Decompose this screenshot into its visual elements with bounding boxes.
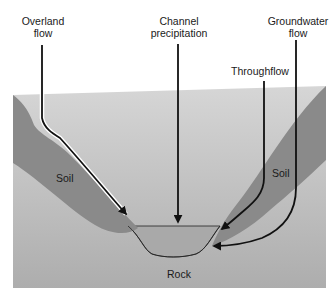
channel-precipitation-label: Channel precipitation bbox=[143, 15, 215, 39]
groundwater-flow-label-line1: Groundwater bbox=[262, 15, 334, 27]
channel-precipitation-label-line1: Channel bbox=[143, 15, 215, 27]
soil-right-label: Soil bbox=[272, 167, 290, 179]
river-channel-diagram bbox=[0, 0, 334, 296]
groundwater-flow-label-line2: flow bbox=[262, 27, 334, 39]
channel-precipitation-label-line2: precipitation bbox=[143, 27, 215, 39]
overland-flow-label-line2: flow bbox=[18, 27, 68, 39]
throughflow-label-line1: Throughflow bbox=[230, 65, 290, 77]
groundwater-flow-label: Groundwater flow bbox=[262, 15, 334, 39]
rock-label: Rock bbox=[167, 268, 191, 280]
overland-flow-label: Overland flow bbox=[18, 15, 68, 39]
overland-flow-label-line1: Overland bbox=[18, 15, 68, 27]
throughflow-label: Throughflow bbox=[230, 65, 290, 77]
soil-left-label: Soil bbox=[56, 172, 74, 184]
